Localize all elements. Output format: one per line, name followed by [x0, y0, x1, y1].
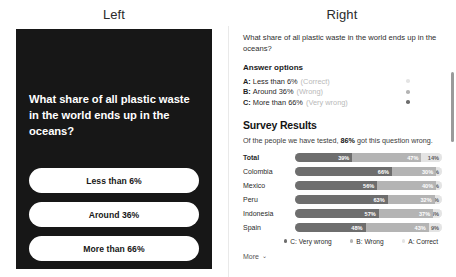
bar-row: Total39%47%14%	[243, 151, 442, 165]
legend-item: A: Correct	[402, 238, 438, 245]
answer-option-b[interactable]: B: Around 36% (Wrong)	[243, 87, 442, 98]
bar-segment: 14%	[421, 153, 442, 162]
option-tag: (Wrong)	[297, 87, 324, 96]
phone-preview: What share of all plastic waste in the w…	[16, 29, 212, 269]
bar-segment: 37%	[379, 209, 433, 218]
bar-row-label: Spain	[243, 224, 295, 231]
bar-track: 56%40%4%	[295, 181, 442, 190]
column-heading-left: Left	[0, 7, 228, 22]
bar-segment: 30%	[392, 167, 436, 176]
bar-segment: 5%	[435, 195, 442, 204]
option-color-dot	[406, 100, 410, 104]
bar-row: Colombia66%30%4%	[243, 165, 442, 179]
legend-label: C: Very wrong	[290, 238, 331, 245]
chevron-down-icon: ⌄	[262, 253, 267, 259]
phone-question-text: What share of all plastic waste in the w…	[29, 91, 201, 139]
answer-option-c[interactable]: C: More than 66% (Very wrong)	[243, 97, 442, 108]
scrollbar-track[interactable]	[451, 27, 455, 277]
bar-track: 63%32%5%	[295, 195, 442, 204]
option-letter: C:	[243, 98, 251, 107]
choice-option-a[interactable]: Less than 6%	[29, 168, 199, 193]
bar-row-label: Colombia	[243, 168, 295, 175]
option-label: Less than 6%	[253, 77, 298, 86]
question-detail-card: What share of all plastic waste in the w…	[228, 26, 456, 277]
option-label: More than 66%	[253, 98, 303, 107]
survey-results-subtitle: Of the people we have tested, 86% got th…	[243, 136, 442, 145]
subtitle-before: Of the people we have tested,	[243, 136, 341, 145]
answer-options-title: Answer options	[243, 63, 442, 72]
more-label: More	[243, 253, 259, 260]
bar-segment: 9%	[429, 223, 442, 232]
subtitle-after: got this question wrong.	[355, 136, 433, 145]
answer-options-list: A: Less than 6% (Correct) B: Around 36% …	[243, 76, 442, 108]
bar-row-label: Total	[243, 154, 295, 161]
bar-row-label: Indonesia	[243, 210, 295, 217]
column-heading-right: Right	[228, 7, 456, 22]
option-tag: (Very wrong)	[306, 98, 348, 107]
bar-track: 57%37%6%	[295, 209, 442, 218]
bar-row: Peru63%32%5%	[243, 193, 442, 207]
bar-segment: 4%	[436, 181, 442, 190]
chart-legend: C: Very wrongB: WrongA: Correct	[243, 238, 442, 245]
bar-segment: 63%	[295, 195, 388, 204]
bar-segment: 66%	[295, 167, 392, 176]
bar-segment: 4%	[436, 167, 442, 176]
legend-label: B: Wrong	[356, 238, 383, 245]
survey-bar-chart: Total39%47%14%Colombia66%30%4%Mexico56%4…	[243, 151, 442, 235]
bar-track: 66%30%4%	[295, 167, 442, 176]
comparison-view: Left Right What share of all plastic was…	[0, 0, 456, 277]
bar-segment: 57%	[295, 209, 379, 218]
choice-option-b[interactable]: Around 36%	[29, 202, 199, 227]
legend-item: B: Wrong	[350, 238, 384, 245]
survey-results-title: Survey Results	[243, 119, 442, 131]
option-tag: (Correct)	[301, 77, 330, 86]
phone-choice-list: Less than 6% Around 36% More than 66%	[29, 168, 199, 261]
bar-row: Indonesia57%37%6%	[243, 207, 442, 221]
choice-option-c[interactable]: More than 66%	[29, 236, 199, 261]
bar-row-label: Mexico	[243, 182, 295, 189]
bar-segment: 56%	[295, 181, 377, 190]
bar-segment: 47%	[352, 153, 421, 162]
answer-option-a[interactable]: A: Less than 6% (Correct)	[243, 76, 442, 87]
bar-segment: 39%	[295, 153, 352, 162]
legend-label: A: Correct	[408, 238, 438, 245]
bar-segment: 48%	[295, 223, 366, 232]
option-label: Around 36%	[253, 87, 294, 96]
bar-row-label: Peru	[243, 196, 295, 203]
bar-row: Spain48%43%9%	[243, 221, 442, 235]
option-color-dot	[406, 79, 410, 83]
option-letter: B:	[243, 87, 251, 96]
legend-item: C: Very wrong	[284, 238, 332, 245]
bar-segment: 40%	[377, 181, 436, 190]
legend-color-dot	[284, 239, 288, 243]
more-button[interactable]: More ⌄	[243, 253, 267, 260]
bar-segment: 6%	[433, 209, 442, 218]
bar-row: Mexico56%40%4%	[243, 179, 442, 193]
bar-segment: 43%	[366, 223, 429, 232]
subtitle-percent: 86%	[341, 136, 355, 145]
bar-track: 48%43%9%	[295, 223, 442, 232]
option-letter: A:	[243, 77, 251, 86]
card-question-text: What share of all plastic waste in the w…	[243, 33, 443, 54]
bar-track: 39%47%14%	[295, 153, 442, 162]
scrollbar-thumb[interactable]	[451, 72, 455, 142]
bar-segment: 32%	[388, 195, 435, 204]
legend-color-dot	[350, 239, 354, 243]
option-color-dot	[406, 90, 410, 94]
legend-color-dot	[402, 239, 406, 243]
